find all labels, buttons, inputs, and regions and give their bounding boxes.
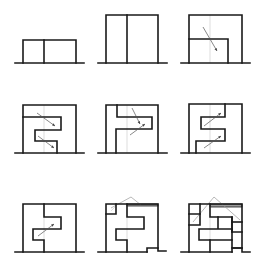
wall-line [232, 248, 250, 252]
wall-line [210, 204, 242, 232]
diagram-panel-4 [15, 105, 84, 153]
wall-line [147, 248, 166, 252]
diagram-panel-7 [15, 204, 84, 252]
diagram-panel-9 [181, 197, 250, 252]
wall-line [106, 204, 158, 252]
diagram-canvas [0, 0, 258, 254]
wall-line [189, 39, 228, 63]
arrow-icon [38, 224, 54, 236]
arrow-icon [204, 113, 221, 126]
wall-line [23, 105, 76, 153]
diagram-panel-2 [98, 15, 167, 63]
wall-line [23, 204, 76, 252]
diagram-panel-3 [181, 15, 250, 63]
diagram-panel-8 [98, 197, 166, 252]
wall-line [106, 15, 158, 63]
diagram-panel-6 [181, 104, 250, 153]
wall-line [116, 204, 144, 252]
arrow-icon [38, 136, 54, 148]
wall-line [189, 204, 200, 214]
wall-line [23, 40, 76, 63]
diagram-panel-5 [98, 105, 167, 153]
wall-line [33, 204, 61, 252]
wall-line [189, 204, 242, 252]
wall-line [199, 217, 232, 240]
wall-line [232, 240, 242, 248]
arrow-icon [37, 113, 55, 126]
arrow-icon [204, 136, 221, 148]
roof-line [193, 197, 214, 222]
arrow-icon [132, 108, 140, 124]
wall-line [196, 104, 225, 153]
wall-line [106, 204, 116, 214]
wall-line [23, 117, 61, 153]
diagram-panel-1 [15, 40, 84, 63]
